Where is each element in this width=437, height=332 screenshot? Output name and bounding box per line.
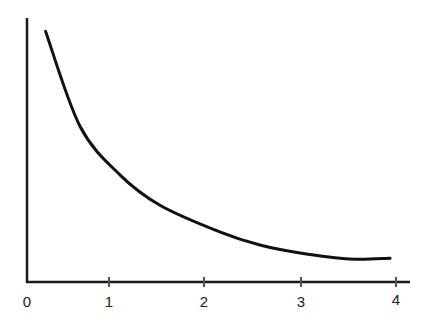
x-tick-label: 1 — [105, 293, 113, 310]
x-tick-label: 0 — [23, 293, 31, 310]
x-tick-label: 2 — [200, 293, 208, 310]
data-curve — [46, 31, 391, 259]
x-tick-labels: 01234 — [23, 291, 400, 310]
chart: 01234 — [0, 0, 437, 332]
x-tick-label: 4 — [392, 291, 400, 308]
x-tick-label: 3 — [297, 293, 305, 310]
